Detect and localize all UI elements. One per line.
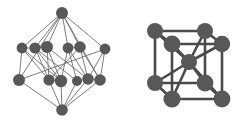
graph-node	[55, 75, 67, 87]
graph-node	[82, 73, 94, 85]
graph-node	[147, 75, 163, 91]
graph-node	[29, 42, 40, 53]
graph-node	[181, 54, 197, 70]
graph-figure-canvas	[0, 0, 247, 124]
figure-background	[0, 0, 247, 124]
graph-node	[43, 74, 54, 85]
graph-node	[56, 7, 68, 19]
graph-node	[147, 23, 163, 39]
graph-node	[214, 91, 231, 108]
graph-node	[63, 43, 74, 54]
graph-node	[197, 23, 213, 39]
graph-node	[17, 43, 28, 54]
graph-node	[41, 41, 53, 53]
graph-node	[72, 76, 82, 86]
graph-node	[197, 75, 214, 92]
graph-node	[100, 44, 111, 55]
graph-node	[74, 41, 86, 53]
graph-node	[94, 74, 106, 86]
graph-node	[163, 90, 180, 107]
graph-node	[214, 36, 230, 52]
graph-node	[164, 36, 181, 53]
graph-node	[56, 104, 68, 116]
graph-node	[13, 74, 25, 86]
